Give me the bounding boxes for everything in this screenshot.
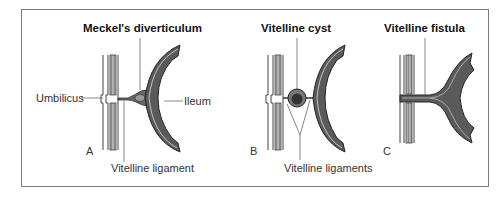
panel-a-ileum: [145, 45, 180, 152]
umbilicus-label: Umbilicus: [36, 93, 84, 104]
panel-b-ileum: [313, 45, 345, 152]
panel-a-letter: A: [86, 146, 93, 157]
panel-a-title: Meckel's diverticulum: [83, 23, 202, 35]
panel-a-abdominal-wall: [101, 55, 118, 150]
ileum-label: Ileum: [184, 96, 211, 107]
panel-b-abdominal-wall: [266, 55, 283, 150]
panel-b-title: Vitelline cyst: [261, 23, 331, 35]
panel-c-title: Vitelline fistula: [384, 23, 465, 35]
vitelline-ligaments-label: Vitelline ligaments: [284, 163, 372, 174]
panel-c-letter: C: [383, 146, 391, 157]
panel-b-letter: B: [250, 146, 257, 157]
vitelline-ligament-label: Vitelline ligament: [111, 163, 194, 174]
panel-b-cyst: [283, 89, 315, 107]
